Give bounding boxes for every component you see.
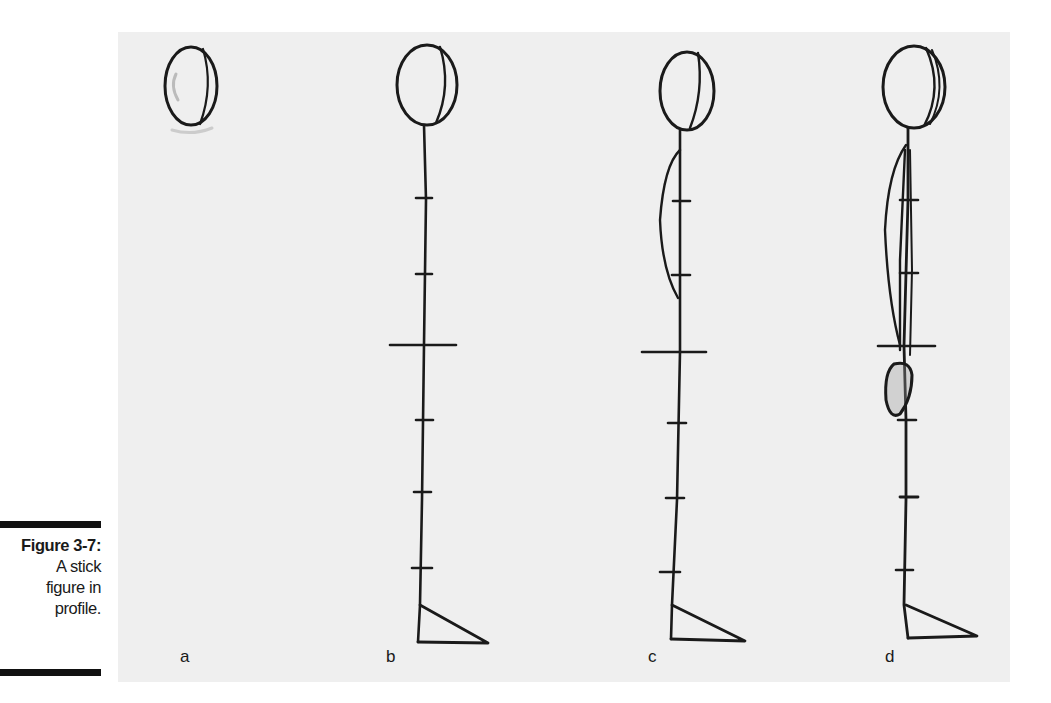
panel-label-c: c xyxy=(648,647,657,666)
panel-label-d: d xyxy=(885,647,894,666)
head-b xyxy=(397,45,457,125)
panel-label-a: a xyxy=(180,647,190,666)
figure-d: d xyxy=(878,46,977,666)
hand-d xyxy=(886,363,912,415)
panel-label-b: b xyxy=(386,647,395,666)
figure-a: a xyxy=(165,47,217,666)
stick-figure-drawings: a b c xyxy=(0,0,1051,703)
head-c xyxy=(660,52,714,130)
figure-b: b xyxy=(386,45,488,666)
foot-d xyxy=(906,605,977,638)
foot-b xyxy=(418,605,488,643)
figure-c: c xyxy=(642,52,745,666)
foot-c xyxy=(671,605,745,641)
spine-c xyxy=(671,130,680,639)
spine-b xyxy=(418,125,426,642)
